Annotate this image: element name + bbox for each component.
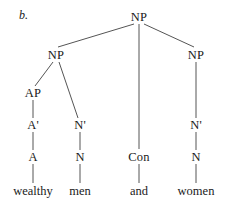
tree-node-np-left: NP bbox=[48, 49, 64, 62]
edge-npleft-ap bbox=[35, 62, 53, 86]
tree-leaf-men: men bbox=[69, 185, 91, 198]
tree-node-n-mid: N bbox=[75, 151, 84, 164]
tree-node-n-bar-mid: N' bbox=[74, 119, 86, 132]
tree-node-n-bar-rt: N' bbox=[190, 119, 202, 132]
syntax-tree-figure: b. NPNPNPAPA'AN'NConN'N wealthymenandwom… bbox=[0, 0, 231, 209]
tree-leaf-and: and bbox=[130, 185, 148, 198]
tree-node-ap: AP bbox=[25, 87, 41, 100]
edge-nptop-npleft bbox=[58, 24, 134, 47]
tree-node-np-top: NP bbox=[131, 11, 147, 24]
tree-node-a: A bbox=[28, 151, 37, 164]
tree-node-np-right: NP bbox=[188, 49, 204, 62]
edge-nptop-npright bbox=[144, 24, 194, 47]
tree-leaf-wealthy: wealthy bbox=[13, 185, 53, 198]
tree-leaf-women: women bbox=[178, 185, 215, 198]
edge-npleft-nbar bbox=[59, 62, 78, 118]
tree-node-n-rt: N bbox=[191, 151, 200, 164]
tree-node-a-bar: A' bbox=[27, 119, 39, 132]
tree-node-con: Con bbox=[128, 151, 149, 164]
tree-edges bbox=[0, 0, 231, 209]
